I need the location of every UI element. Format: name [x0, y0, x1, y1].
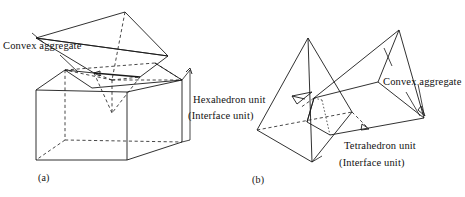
caption-panel-a: (a) — [38, 172, 50, 184]
leader-b-front-vertex — [312, 156, 322, 162]
label-tetrahedron-unit: Tetrahedron unit — [344, 140, 416, 152]
aggregate-a-cut-chord — [94, 73, 140, 77]
tetrahedron-edge-right-front — [312, 112, 352, 162]
label-convex-aggregate-a: Convex aggregate — [3, 40, 82, 52]
leader-b-base-arrow-line — [352, 112, 368, 128]
aggregate-b-ridge-to-apex — [378, 30, 399, 82]
tetrahedron-edge-apex-front — [308, 38, 312, 162]
hexahedron-front-top — [36, 90, 127, 92]
hexahedron-right-bottom — [127, 142, 182, 160]
aggregate-a-axis-hidden — [112, 12, 125, 80]
tetrahedron-edge-left-front — [257, 130, 312, 162]
hexahedron-top-right-visible — [155, 63, 182, 80]
hexahedron-back-bottom-left — [36, 140, 65, 160]
hexahedron-top-left-slope — [36, 70, 65, 90]
aggregate-a-right-edge-down — [140, 56, 168, 77]
label-hexahedron-interface-unit: (Interface unit) — [188, 110, 254, 122]
tetrahedron-edge-hidden-base — [257, 112, 352, 130]
label-hexahedron-unit: Hexahedron unit — [193, 94, 266, 106]
hexahedron-right-top — [127, 80, 182, 92]
label-tetrahedron-interface-unit: (Interface unit) — [339, 157, 405, 169]
figure-canvas: Convex aggregate Hexahedron unit (Interf… — [0, 0, 465, 197]
tetrahedron-edge-apex-left — [257, 38, 308, 130]
aggregate-a-inner-right — [112, 77, 140, 113]
label-convex-aggregate-b: Convex aggregate — [383, 76, 462, 88]
aggregate-b-hidden-seam — [322, 100, 330, 135]
tetrahedron-edge-apex-right — [308, 38, 352, 112]
hexahedron-top-front-right — [92, 80, 182, 88]
aggregate-b-hidden-seam-top — [314, 98, 322, 100]
hexahedron-back-bottom-right — [65, 140, 182, 142]
caption-panel-b: (b) — [252, 174, 264, 186]
panel-a-hexahedron — [32, 12, 192, 160]
aggregate-a-inner-diag-right — [112, 77, 140, 80]
leader-a-hexahedron-bracket — [182, 70, 190, 142]
